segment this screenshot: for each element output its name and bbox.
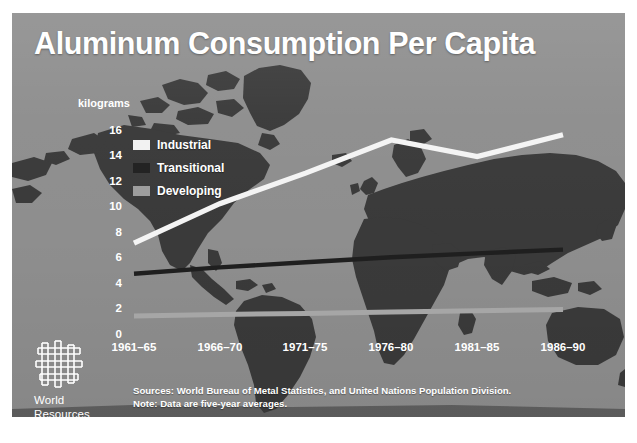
wri-branding: World Resources Institute [34, 339, 124, 417]
y-tick-16: 16 [96, 124, 122, 136]
x-tick-1971-75: 1971–75 [263, 341, 347, 353]
y-tick-4: 4 [96, 277, 122, 289]
legend-item-developing[interactable]: Developing [133, 180, 273, 201]
y-tick-14: 14 [96, 149, 122, 161]
x-tick-1981-85: 1981–85 [435, 341, 519, 353]
chart-legend: Industrial Transitional Developing [133, 134, 273, 203]
legend-label-developing: Developing [157, 184, 222, 198]
chart-poster: Aluminum Consumption Per Capita kilogram… [12, 13, 625, 417]
legend-swatch-transitional-icon [133, 163, 150, 173]
wri-woven-logo-icon [34, 339, 86, 389]
screenshot-root: Aluminum Consumption Per Capita kilogram… [0, 0, 637, 443]
y-tick-2: 2 [96, 302, 122, 314]
y-tick-12: 12 [96, 175, 122, 187]
wri-name: World Resources Institute [34, 393, 124, 417]
series-line-transitional [134, 250, 563, 274]
y-tick-8: 8 [96, 226, 122, 238]
x-tick-1986-90: 1986–90 [521, 341, 605, 353]
wri-name-line-2: Resources [34, 407, 124, 417]
y-axis-units-label: kilograms [78, 97, 130, 109]
data-note: Note: Data are five-year averages. [133, 397, 613, 410]
legend-label-industrial: Industrial [157, 138, 211, 152]
legend-item-industrial[interactable]: Industrial [133, 134, 273, 155]
legend-swatch-developing-icon [133, 186, 150, 196]
series-line-developing [134, 310, 563, 316]
wri-name-line-1: World [34, 393, 124, 407]
x-tick-1976-80: 1976–80 [349, 341, 433, 353]
y-tick-6: 6 [96, 251, 122, 263]
chart-footnotes: Sources: World Bureau of Metal Statistic… [133, 384, 613, 410]
legend-label-transitional: Transitional [157, 161, 224, 175]
legend-item-transitional[interactable]: Transitional [133, 157, 273, 178]
y-tick-10: 10 [96, 200, 122, 212]
sources-note: Sources: World Bureau of Metal Statistic… [133, 384, 613, 397]
page-title: Aluminum Consumption Per Capita [34, 27, 609, 59]
x-tick-1966-70: 1966–70 [178, 341, 262, 353]
legend-swatch-industrial-icon [133, 140, 150, 150]
